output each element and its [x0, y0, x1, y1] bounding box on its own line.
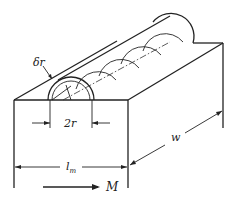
direction-label: M — [105, 180, 119, 194]
block-top-face — [14, 41, 223, 100]
diameter-label: 2r — [63, 117, 77, 130]
length-dimension: lm — [15, 160, 127, 175]
length-label: lm — [66, 160, 77, 175]
direction-arrow: M — [43, 180, 119, 194]
diameter-dimension: 2r — [32, 100, 110, 130]
shell-thickness-label: δr — [33, 56, 46, 69]
width-dimension: w — [130, 111, 222, 165]
shell-thickness-annotation: δr — [33, 56, 52, 79]
width-label: w — [171, 131, 181, 144]
half-cylinder — [48, 13, 194, 100]
block-diagram: δr 2r w lm M — [0, 0, 235, 198]
